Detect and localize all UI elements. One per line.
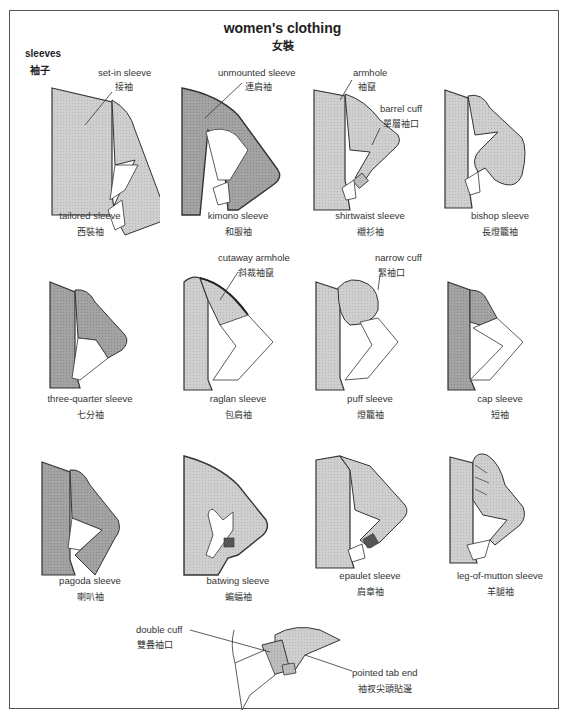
sleeve-illustration-batwing	[178, 450, 308, 630]
callout-set-in-sleeve-zh: 接袖	[115, 80, 133, 93]
callout-cutaway-armhole: cutaway armhole	[218, 252, 290, 263]
sleeve-illustration-raglan	[178, 270, 308, 450]
double-cuff-illustration	[220, 615, 360, 715]
callout-pointed-tab-end: pointed tab end	[352, 667, 418, 678]
callout-armhole: armhole	[353, 67, 387, 78]
caption-kimono-sleeve-zh: 和服袖	[173, 225, 303, 238]
sleeve-illustration-leg-of-mutton	[445, 445, 565, 625]
caption-cap-sleeve-zh: 短袖	[435, 408, 565, 421]
puff-sleeve-drawing	[310, 270, 440, 450]
caption-three-quarter-sleeve: three-quarter sleeve	[25, 393, 155, 404]
page-title-zh: 女裝	[0, 37, 565, 53]
pagoda-sleeve-drawing	[30, 450, 160, 630]
double-cuff-drawing	[220, 615, 360, 715]
sleeve-illustration-kimono	[178, 70, 308, 250]
caption-batwing-sleeve: batwing sleeve	[173, 575, 303, 586]
callout-barrel-cuff: barrel cuff	[380, 103, 422, 114]
caption-batwing-sleeve-zh: 蝙蝠袖	[173, 590, 303, 603]
caption-pagoda-sleeve: pagoda sleeve	[25, 575, 155, 586]
callout-pointed-tab-end-zh: 袖衩尖頭貼邊	[358, 682, 412, 695]
caption-puff-sleeve-zh: 燈籠袖	[305, 408, 435, 421]
sleeve-illustration-epaulet	[310, 450, 440, 630]
caption-shirtwaist-sleeve-zh: 襯衫袖	[305, 225, 435, 238]
section-heading: sleeves	[25, 48, 61, 59]
callout-narrow-cuff-zh: 緊袖口	[378, 266, 405, 279]
sleeve-illustration-pagoda	[30, 450, 160, 630]
caption-leg-of-mutton-sleeve: leg-of-mutton sleeve	[435, 570, 565, 581]
callout-narrow-cuff: narrow cuff	[375, 252, 422, 263]
caption-leg-of-mutton-sleeve-zh: 羊腿袖	[435, 585, 565, 598]
caption-raglan-sleeve: raglan sleeve	[173, 393, 303, 404]
caption-bishop-sleeve: bishop sleeve	[435, 210, 565, 221]
caption-raglan-sleeve-zh: 包肩袖	[173, 408, 303, 421]
callout-set-in-sleeve: set-in sleeve	[98, 67, 151, 78]
caption-three-quarter-sleeve-zh: 七分袖	[25, 408, 155, 421]
caption-epaulet-sleeve: epaulet sleeve	[305, 570, 435, 581]
callout-double-cuff: double cuff	[136, 624, 182, 635]
batwing-sleeve-drawing	[178, 450, 308, 630]
callout-unmounted-sleeve: unmounted sleeve	[218, 67, 296, 78]
caption-tailored-sleeve-zh: 西裝袖	[25, 225, 155, 238]
caption-bishop-sleeve-zh: 長燈籠袖	[435, 225, 565, 238]
tailored-sleeve-drawing	[30, 70, 160, 250]
sleeve-illustration-three-quarter	[30, 270, 160, 450]
page-title: women's clothing	[0, 20, 565, 36]
callout-cutaway-armhole-zh: 斜裁袖竄	[238, 266, 274, 279]
epaulet-sleeve-drawing	[310, 450, 440, 630]
callout-unmounted-sleeve-zh: 連肩袖	[245, 80, 272, 93]
caption-puff-sleeve: puff sleeve	[305, 393, 435, 404]
caption-tailored-sleeve: tailored sleeve	[25, 210, 155, 221]
caption-kimono-sleeve: kimono sleeve	[173, 210, 303, 221]
callout-double-cuff-zh: 雙疊袖口	[137, 638, 173, 651]
three-quarter-sleeve-drawing	[30, 270, 160, 450]
sleeve-illustration-puff	[310, 270, 440, 450]
caption-epaulet-sleeve-zh: 肩章袖	[305, 585, 435, 598]
cap-sleeve-drawing	[445, 270, 565, 450]
sleeve-illustration-cap	[445, 270, 565, 450]
callout-armhole-zh: 袖竄	[358, 80, 376, 93]
caption-shirtwaist-sleeve: shirtwaist sleeve	[305, 210, 435, 221]
raglan-sleeve-drawing	[178, 270, 308, 450]
kimono-sleeve-drawing	[178, 70, 308, 250]
leg-of-mutton-sleeve-drawing	[445, 445, 565, 625]
caption-cap-sleeve: cap sleeve	[435, 393, 565, 404]
callout-barrel-cuff-zh: 單層袖口	[383, 117, 419, 130]
sleeve-illustration-tailored	[30, 70, 160, 250]
caption-pagoda-sleeve-zh: 喇叭袖	[25, 590, 155, 603]
